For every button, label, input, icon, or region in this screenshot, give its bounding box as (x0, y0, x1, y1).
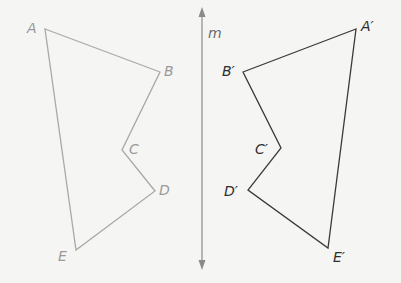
label-e: E (58, 248, 67, 264)
arrowhead-up-icon (199, 7, 206, 17)
label-d-prime: D′ (224, 183, 238, 199)
diagram-canvas (0, 0, 401, 283)
label-a: A (27, 20, 37, 36)
label-b: B (164, 63, 174, 79)
label-d: D (159, 182, 170, 198)
label-a-prime: A′ (361, 18, 374, 34)
label-m: m (208, 25, 222, 41)
label-c-prime: C′ (255, 141, 268, 157)
label-e-prime: E′ (333, 249, 345, 265)
reflection-diagram: m A B C D E A′ B′ C′ D′ E′ (0, 0, 401, 283)
label-c: C (129, 141, 139, 157)
image-polygon-abcde-prime (243, 29, 356, 248)
arrowhead-down-icon (199, 260, 206, 270)
line-of-reflection-m (199, 7, 206, 270)
label-b-prime: B′ (222, 63, 235, 79)
preimage-polygon-abcde (45, 29, 160, 250)
